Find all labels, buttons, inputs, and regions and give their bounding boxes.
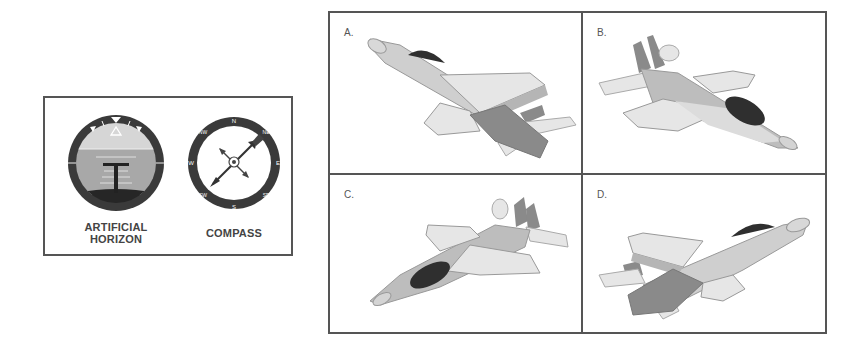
artificial-horizon-label-line1: ARTIFICIAL: [61, 221, 171, 233]
compass-icon: N E S W NE SE SW NW: [186, 115, 282, 211]
option-d[interactable]: D.: [583, 175, 827, 332]
airplane-c-icon: [330, 175, 581, 332]
compass-w-mark: W: [188, 160, 194, 166]
airplane-b-icon: [583, 13, 827, 173]
svg-text:NW: NW: [199, 129, 208, 135]
instrument-panel: ARTIFICIAL HORIZON N E S W NE SE SW NW: [43, 96, 293, 256]
compass-gauge: N E S W NE SE SW NW: [186, 115, 282, 211]
compass-e-mark: E: [276, 160, 280, 166]
option-c[interactable]: C.: [330, 175, 581, 332]
artificial-horizon-label: ARTIFICIAL HORIZON: [61, 221, 171, 245]
svg-text:NE: NE: [263, 129, 271, 135]
airplane-a-icon: [330, 13, 581, 173]
compass-s-mark: S: [232, 204, 236, 210]
artificial-horizon-gauge: [66, 113, 166, 213]
svg-text:SW: SW: [199, 192, 207, 198]
airplane-d-icon: [583, 175, 827, 332]
aircraft-options-grid: A. B.: [328, 11, 827, 334]
svg-text:SE: SE: [263, 192, 270, 198]
artificial-horizon-icon: [66, 113, 166, 213]
option-a[interactable]: A.: [330, 13, 581, 173]
compass-label: COMPASS: [179, 227, 289, 239]
artificial-horizon-label-line2: HORIZON: [61, 233, 171, 245]
compass-n-mark: N: [232, 118, 236, 124]
option-b[interactable]: B.: [583, 13, 827, 173]
